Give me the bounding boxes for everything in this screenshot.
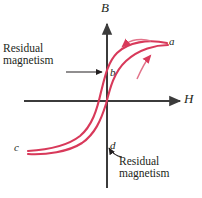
residual-magnetism-upper-line-1: Residual	[3, 42, 53, 54]
point-label-b: b	[110, 67, 116, 79]
residual-magnetism-lower-label: Residual magnetism	[119, 155, 169, 180]
hysteresis-loop-figure: B H a b c d Residual magnetism Residual …	[0, 0, 202, 198]
residual-magnetism-upper-line-2: magnetism	[3, 54, 53, 66]
point-label-c: c	[14, 142, 19, 154]
axis-label-h: H	[184, 92, 193, 106]
lower-branch-direction-arrow-icon	[137, 56, 150, 79]
residual-magnetism-upper-label: Residual magnetism	[3, 42, 53, 67]
residual-magnetism-lower-line-1: Residual	[119, 155, 169, 167]
point-label-d: d	[110, 140, 116, 152]
point-label-a: a	[169, 36, 175, 48]
axis-label-b: B	[101, 1, 109, 15]
hysteresis-diagram-svg	[0, 0, 202, 198]
residual-magnetism-lower-line-2: magnetism	[119, 167, 169, 179]
